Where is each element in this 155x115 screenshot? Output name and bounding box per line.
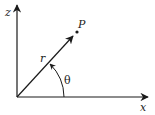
point-p-label: P	[77, 18, 86, 31]
angle-label: θ	[64, 74, 71, 87]
polar-diagram: z x P r θ	[0, 0, 155, 115]
angle-arc	[50, 64, 64, 97]
radius-label: r	[40, 52, 46, 65]
z-axis-label: z	[4, 6, 11, 19]
radius-vector	[17, 36, 73, 97]
x-axis-label: x	[140, 101, 147, 114]
